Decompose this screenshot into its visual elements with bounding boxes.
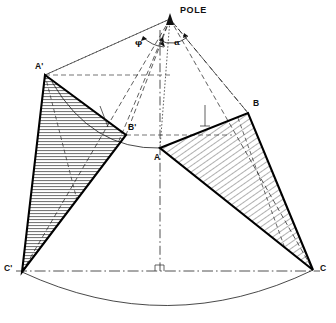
perpendicular-tick-b	[200, 105, 210, 126]
right-triangle-a-b-c	[160, 113, 313, 270]
pole-to-b-prime-line	[126, 19, 170, 135]
vertex-label-c-prime: C'	[4, 264, 13, 273]
vertex-label-c: C	[320, 264, 326, 273]
pole-marker	[166, 13, 174, 25]
angle-label-phi: φ	[135, 38, 142, 46]
vertex-label-a: A	[154, 153, 160, 162]
vertex-label-b: B	[253, 99, 259, 108]
vertex-label-b-prime: B'	[128, 123, 137, 132]
base-arc-path	[22, 270, 313, 306]
vertex-label-a-prime: A'	[35, 62, 44, 71]
diagram-canvas	[0, 0, 336, 323]
angle-label-alpha: α	[174, 38, 180, 46]
guide-a-prime-to-b-prime	[45, 19, 170, 75]
geometry-diagram: POLE A' B' C' A B C φ α	[0, 0, 336, 323]
center-tick-mark	[155, 265, 164, 271]
left-triangle-a-prime-b-prime-c-prime	[22, 75, 126, 272]
angle-arc-arrowheads	[141, 33, 188, 47]
pole-label: POLE	[180, 6, 207, 15]
